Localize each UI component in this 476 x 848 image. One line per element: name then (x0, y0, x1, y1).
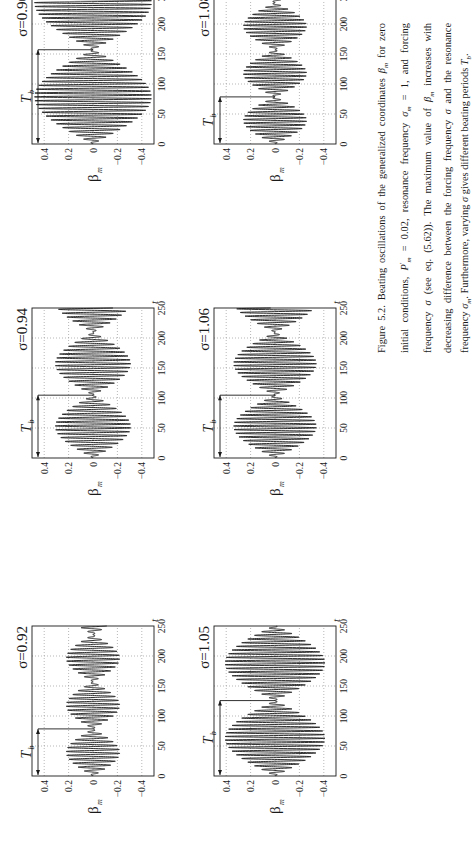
waveform-plot: 050100150200250t0.40.20−0.2−0.4βmTbσ=1.0… (190, 0, 365, 186)
y-axis-label-sub: m (277, 481, 286, 487)
arrow-head-icon (36, 395, 40, 400)
y-axis-label-sub: m (95, 481, 104, 487)
plot-panel-sigma-1-08: 050100150200250t0.40.20−0.2−0.4βmTbσ=1.0… (190, 0, 365, 186)
tb-label-sub: b (27, 90, 36, 94)
arrow-head-icon (218, 395, 222, 400)
y-tick-label: 0 (89, 462, 99, 467)
y-axis-label: β (85, 488, 101, 496)
waveform-plot: 050100150200250t0.40.20−0.2−0.4βmTbσ=1.0… (190, 518, 365, 818)
x-tick-label: 150 (339, 361, 349, 376)
figure-label: Figure 5.2. (376, 305, 387, 353)
x-tick-label: 0 (157, 455, 167, 460)
tb-label-sub: b (209, 731, 218, 735)
y-tick-label: 0.2 (64, 148, 74, 160)
x-axis-label: t (148, 618, 160, 622)
arrow-head-icon (36, 138, 40, 143)
x-tick-label: 250 (339, 0, 349, 1)
y-tick-label: −0.2 (295, 780, 305, 797)
x-axis-label: t (330, 300, 342, 304)
arrow-head-icon (218, 701, 222, 706)
beta-m-curve (234, 308, 317, 458)
waveform-plot: 050100150200250t0.40.20−0.2−0.4βmTbσ=0.9… (8, 200, 183, 500)
tb-label-sub: b (209, 420, 218, 424)
tb-label: T (19, 424, 34, 433)
y-tick-label: 0.2 (246, 148, 256, 160)
arrow-head-icon (218, 138, 222, 143)
y-tick-label: 0.2 (64, 462, 74, 474)
y-axis-label: β (85, 174, 101, 182)
x-tick-label: 150 (157, 361, 167, 376)
y-tick-label: −0.4 (319, 780, 329, 797)
x-tick-label: 200 (157, 331, 167, 346)
sigma-label: σ=0.94 (14, 308, 30, 351)
tb-label: T (201, 735, 216, 744)
x-tick-label: 50 (157, 423, 167, 433)
tb-label: T (19, 94, 34, 103)
y-tick-label: 0.4 (40, 462, 50, 474)
arrow-head-icon (36, 729, 40, 734)
sigma-label: σ=0.96 (14, 0, 30, 37)
waveform-plot: 050100150200250t0.40.20−0.2−0.4βmTbσ=0.9… (8, 518, 183, 818)
x-tick-label: 150 (339, 47, 349, 62)
plot-panel-sigma-1-06: 050100150200250t0.40.20−0.2−0.4βmTbσ=1.0… (190, 200, 365, 500)
beta-m-curve (66, 626, 120, 776)
x-tick-label: 200 (339, 331, 349, 346)
sigma-label: σ=1.08 (196, 0, 212, 37)
y-tick-label: 0.4 (40, 780, 50, 792)
x-tick-label: 200 (339, 17, 349, 32)
y-tick-label: 0 (89, 148, 99, 153)
x-tick-label: 100 (157, 709, 167, 724)
plot-panel-sigma-1-05: 050100150200250t0.40.20−0.2−0.4βmTbσ=1.0… (190, 518, 365, 818)
y-tick-label: −0.4 (319, 462, 329, 479)
y-axis-label: β (85, 806, 101, 814)
x-tick-label: 50 (339, 423, 349, 433)
tb-label-sub: b (27, 745, 36, 749)
caption-body: Beating oscillations of the generalized … (376, 23, 470, 353)
x-tick-label: 50 (339, 741, 349, 751)
x-tick-label: 100 (339, 391, 349, 406)
x-tick-label: 50 (157, 741, 167, 751)
y-tick-label: 0.4 (222, 148, 232, 160)
x-tick-label: 100 (157, 391, 167, 406)
y-tick-label: −0.2 (113, 780, 123, 797)
arrow-head-icon (218, 452, 222, 457)
grid-lines (32, 308, 154, 458)
arrow-head-icon (36, 452, 40, 457)
x-tick-label: 200 (339, 649, 349, 664)
y-tick-label: −0.2 (295, 148, 305, 165)
y-tick-label: −0.4 (137, 462, 147, 479)
arrow-head-icon (218, 97, 222, 102)
y-axis-label-sub: m (277, 799, 286, 805)
x-tick-label: 250 (157, 0, 167, 1)
x-tick-label: 100 (339, 77, 349, 92)
y-tick-label: 0.2 (246, 462, 256, 474)
y-tick-label: −0.2 (113, 148, 123, 165)
x-tick-label: 200 (157, 649, 167, 664)
y-tick-label: −0.4 (137, 780, 147, 797)
waveform-plot: 050100150200250t0.40.20−0.2−0.4βmTbσ=1.0… (190, 200, 365, 500)
x-tick-label: 200 (157, 17, 167, 32)
y-tick-label: 0 (271, 462, 281, 467)
x-tick-label: 0 (339, 773, 349, 778)
plot-panel-sigma-0-92: 050100150200250t0.40.20−0.2−0.4βmTbσ=0.9… (8, 518, 183, 818)
x-tick-label: 100 (339, 709, 349, 724)
x-tick-label: 150 (157, 47, 167, 62)
y-tick-label: −0.4 (319, 148, 329, 165)
sigma-label: σ=1.05 (196, 626, 212, 669)
x-axis-label: t (330, 618, 342, 622)
arrow-head-icon (36, 50, 40, 55)
y-tick-label: −0.2 (295, 462, 305, 479)
y-tick-label: 0.4 (222, 780, 232, 792)
y-tick-label: 0 (89, 780, 99, 785)
x-tick-label: 0 (157, 773, 167, 778)
figure-caption: Figure 5.2. Beating oscillations of the … (372, 23, 476, 353)
y-tick-label: 0 (271, 780, 281, 785)
tb-label-sub: b (209, 113, 218, 117)
plot-panel-sigma-0-96: 050100150200250t0.40.20−0.2−0.4βmTbσ=0.9… (8, 0, 183, 186)
y-tick-label: −0.4 (137, 148, 147, 165)
y-tick-label: 0.2 (64, 780, 74, 792)
y-tick-label: 0.4 (40, 148, 50, 160)
x-tick-label: 50 (339, 109, 349, 119)
